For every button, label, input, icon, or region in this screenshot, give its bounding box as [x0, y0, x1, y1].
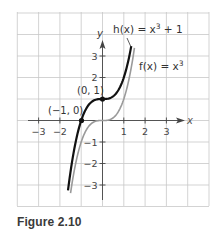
y-tick-label: −2: [83, 158, 97, 169]
grid: [17, 12, 209, 207]
point-neg1-0: [79, 118, 84, 123]
h-label-leader: [127, 38, 131, 47]
y-tick-label: 2: [91, 72, 97, 83]
annotation-0-1: (0, 1): [77, 85, 104, 96]
x-tick-label: −2: [53, 126, 67, 137]
curve-h-x-cubed-plus-one: [68, 46, 131, 190]
x-tick-label: 1: [121, 126, 127, 137]
annotation-neg1-0: (−1, 0): [48, 105, 83, 116]
x-tick-label: 2: [142, 126, 148, 137]
y-axis-label: y: [96, 28, 104, 39]
f-series-label: f(x) = x3: [139, 59, 184, 72]
y-tick-label: 3: [91, 51, 97, 62]
y-tick-label: −3: [83, 180, 97, 191]
x-axis-label: x: [186, 115, 193, 126]
y-tick-label: −1: [83, 137, 97, 148]
x-tick-label: 3: [163, 126, 169, 137]
point-0-1: [100, 96, 105, 101]
x-tick-label: −3: [32, 126, 46, 137]
figure-graph: x y −3−212332−1−2−3 (0, 1) (−1, 0) h(x) …: [0, 0, 222, 235]
h-series-label: h(x) = x3 + 1: [113, 22, 183, 35]
figure-caption: Figure 2.10: [17, 215, 81, 229]
